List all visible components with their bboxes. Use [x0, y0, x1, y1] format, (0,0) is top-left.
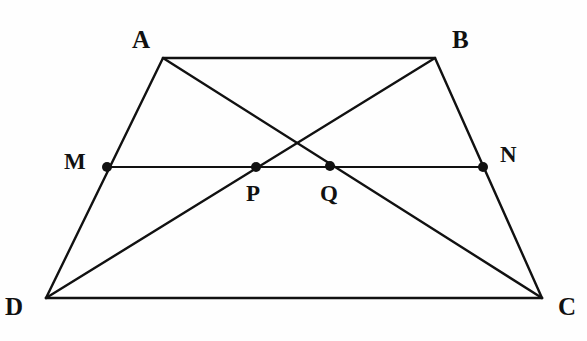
segment-right-side-bc [435, 58, 542, 298]
label-point-p: P [246, 182, 260, 205]
label-point-n: N [500, 143, 517, 166]
diagram-canvas: ABCDMNPQ [0, 0, 587, 341]
point-marker-q [325, 161, 335, 171]
point-marker-n [478, 162, 488, 172]
label-point-c: C [558, 294, 576, 319]
point-marker-m [102, 162, 112, 172]
segments-group [46, 58, 542, 298]
segment-diagonal-ac [163, 58, 542, 298]
point-marker-p [251, 162, 261, 172]
label-point-m: M [64, 150, 86, 173]
label-point-a: A [132, 27, 150, 52]
label-point-b: B [452, 27, 469, 52]
trapezoid-figure [0, 0, 587, 341]
label-point-q: Q [320, 182, 338, 205]
label-point-d: D [5, 294, 23, 319]
